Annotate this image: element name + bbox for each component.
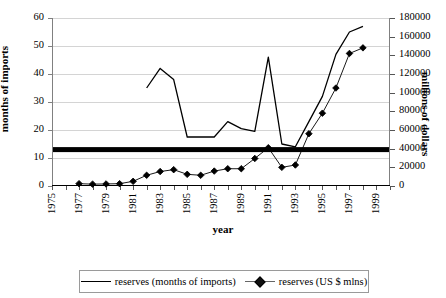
y-axis-right-tick-label: 40000 <box>399 143 425 153</box>
data-point-marker <box>211 168 218 175</box>
x-axis-tick <box>255 186 256 190</box>
series-usd <box>76 45 366 188</box>
data-point-marker <box>130 178 137 185</box>
data-point-marker <box>76 180 83 187</box>
x-axis-tick <box>174 186 175 190</box>
data-point-marker <box>116 180 123 187</box>
x-axis-tick-label: 1981 <box>128 193 138 214</box>
x-axis-tick <box>66 186 67 190</box>
data-point-marker <box>103 181 110 188</box>
y-axis-right-tick <box>390 18 395 19</box>
data-point-marker <box>143 172 150 179</box>
data-point-marker <box>346 50 353 57</box>
x-axis-tick <box>376 186 377 190</box>
legend-label-months: reserves (months of imports) <box>115 276 236 287</box>
data-point-marker <box>306 130 313 137</box>
y-axis-right-tick-label: 20000 <box>399 161 425 171</box>
y-axis-right-tick-label: 160000 <box>399 31 431 41</box>
data-point-marker <box>89 181 96 188</box>
data-point-marker <box>333 85 340 92</box>
y-axis-right-tick-label: 0 <box>399 180 404 190</box>
y-axis-left-tick-label: 0 <box>4 180 44 190</box>
x-axis-tick <box>349 186 350 190</box>
legend-item-months: reserves (months of imports) <box>81 276 236 287</box>
y-axis-right-tick <box>390 167 395 168</box>
data-point-marker <box>184 171 191 178</box>
y-axis-left-tick-label: 60 <box>4 12 44 22</box>
y-axis-left-tick-label: 40 <box>4 68 44 78</box>
data-point-marker <box>157 168 164 175</box>
series-months <box>147 26 363 146</box>
plot-area <box>52 18 390 186</box>
x-axis-tick-label: 1987 <box>209 193 219 214</box>
x-axis-tick <box>201 186 202 190</box>
y-axis-right-tick-label: 120000 <box>399 68 431 78</box>
series-layer <box>52 18 390 186</box>
x-axis-tick <box>268 186 269 190</box>
x-axis-tick <box>52 186 53 190</box>
x-axis-tick-label: 1999 <box>371 193 381 214</box>
x-axis-tick-label: 1985 <box>182 193 192 214</box>
data-point-marker <box>279 164 286 171</box>
y-axis-right-tick <box>390 149 395 150</box>
x-axis-tick-label: 1989 <box>236 193 246 214</box>
y-axis-right-tick-label: 80000 <box>399 105 425 115</box>
data-point-marker <box>292 162 299 169</box>
x-axis-tick <box>322 186 323 190</box>
y-axis-right-tick <box>390 93 395 94</box>
x-axis-tick-label: 1983 <box>155 193 165 214</box>
x-axis-tick <box>147 186 148 190</box>
y-axis-right-tick <box>390 37 395 38</box>
x-axis-tick <box>336 186 337 190</box>
x-axis-tick <box>214 186 215 190</box>
series-line <box>147 26 363 146</box>
x-axis-tick-label: 1977 <box>74 193 84 214</box>
y-axis-right-tick <box>390 111 395 112</box>
x-axis-tick-label: 1995 <box>317 193 327 214</box>
x-axis-tick <box>309 186 310 190</box>
x-axis-tick-label: 1975 <box>47 193 57 214</box>
x-axis-tick <box>295 186 296 190</box>
data-point-marker <box>170 166 177 173</box>
y-axis-left-tick-label: 50 <box>4 40 44 50</box>
data-point-marker <box>319 110 326 117</box>
x-axis-tick <box>282 186 283 190</box>
y-axis-right-tick-label: 140000 <box>399 49 431 59</box>
data-point-marker <box>225 165 232 172</box>
legend-line-swatch-icon <box>81 281 111 282</box>
y-axis-right-tick-label: 100000 <box>399 87 431 97</box>
x-axis-tick <box>363 186 364 190</box>
y-axis-left-tick-label: 10 <box>4 152 44 162</box>
x-axis-tick-label: 1997 <box>344 193 354 214</box>
y-axis-right-tick <box>390 130 395 131</box>
data-point-marker <box>197 172 204 179</box>
x-axis-tick <box>228 186 229 190</box>
x-axis-tick-label: 1993 <box>290 193 300 214</box>
chart-legend: reserves (months of imports) reserves (U… <box>79 270 369 293</box>
x-axis-tick <box>160 186 161 190</box>
series-line <box>79 48 363 184</box>
y-axis-right-tick-label: 180000 <box>399 12 431 22</box>
legend-item-usd: reserves (US $ mlns) <box>245 276 367 287</box>
x-axis-tick-label: 1991 <box>263 193 273 214</box>
data-point-marker <box>360 45 367 52</box>
x-axis-tick-label: 1979 <box>101 193 111 214</box>
legend-diamond-swatch-icon <box>245 278 275 286</box>
y-axis-left-tick-label: 20 <box>4 124 44 134</box>
y-axis-right-tick <box>390 55 395 56</box>
x-axis-tick <box>241 186 242 190</box>
y-axis-title-left: months of imports <box>0 46 10 132</box>
y-axis-right-tick <box>390 74 395 75</box>
x-axis-title: year <box>0 223 446 235</box>
threshold-band <box>53 147 389 152</box>
chart-container: months of imports millions of dollars ye… <box>0 0 446 298</box>
x-axis-tick <box>390 186 391 190</box>
y-axis-right-tick-label: 60000 <box>399 124 425 134</box>
diamond-marker-icon <box>254 276 265 287</box>
x-axis-tick <box>133 186 134 190</box>
legend-label-usd: reserves (US $ mlns) <box>279 276 367 287</box>
y-axis-left-tick-label: 30 <box>4 96 44 106</box>
x-axis-tick <box>187 186 188 190</box>
